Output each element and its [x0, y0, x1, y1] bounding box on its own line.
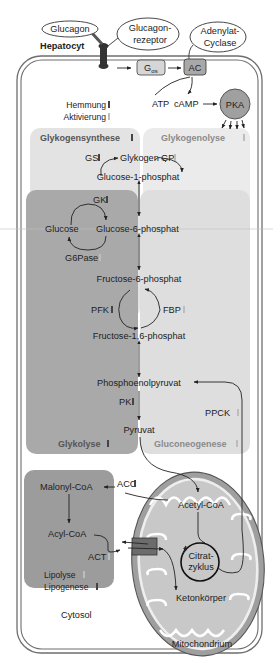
- activation-marker-icon: [108, 113, 110, 120]
- glucagon-signaling-diagram: Glucagon Glucagon- rezeptor Adenylat- Cy…: [0, 0, 273, 665]
- hepatocyt-label: Hepatocyt: [40, 41, 84, 51]
- receptor-label-line1: Glucagon-: [129, 23, 171, 33]
- lipid-lipogenese: Lipogenese: [44, 582, 89, 592]
- adenylat-label-line2: Cyclase: [204, 38, 237, 48]
- region-title-glykolyse: Glykolyse: [58, 439, 101, 449]
- metabolite-acetyl: Acetyl-CoA: [178, 500, 225, 510]
- camp-label: cAMP: [174, 99, 199, 109]
- legend-activation: Aktivierung: [63, 112, 106, 122]
- region-title-glykogensynthese: Glykogensynthese: [40, 133, 120, 143]
- metabolite-pyruvat: Pyruvat: [123, 425, 155, 435]
- metabolite-keton: Ketonkörper: [176, 593, 226, 603]
- carnitine-transporter: [132, 538, 157, 555]
- metabolite-glykogen: Glykogen: [120, 153, 159, 163]
- enzyme-fbp: FBP: [163, 305, 181, 315]
- enzyme-pk: PK: [119, 397, 132, 407]
- lipid-lipolyse: Lipolyse: [44, 570, 76, 580]
- adenylat-label-line1: Adenylat-: [201, 26, 240, 36]
- ac-label: AC: [189, 63, 202, 73]
- citrat-label-line1: Citrat-: [188, 551, 213, 561]
- enzyme-pfk: PFK: [91, 305, 110, 315]
- metabolite-g1p: Glucose-1-phosphat: [97, 172, 180, 182]
- metabolite-acyl: Acyl-CoA: [48, 529, 87, 539]
- compartment-cytosol: Cytosol: [61, 610, 92, 620]
- legend-inhibition: Hemmung: [66, 100, 106, 110]
- receptor-label-line2: rezeptor: [133, 35, 167, 45]
- enzyme-acc: ACC: [117, 479, 137, 489]
- metabolite-f16p: Fructose-1,6-phosphat: [93, 331, 186, 341]
- compartment-mitochondrium: Mitochondrium: [172, 639, 233, 649]
- enzyme-act: ACT: [88, 552, 107, 562]
- inhibition-marker-icon: [108, 101, 110, 108]
- enzyme-gk: GK: [93, 195, 107, 205]
- region-title-gluconeogenese: Gluconeogenese: [154, 439, 227, 449]
- glucagon-label: Glucagon: [50, 24, 89, 34]
- metabolite-g6p: Glucose-6-phosphat: [96, 224, 179, 234]
- metabolite-glucose: Glucose: [45, 224, 79, 234]
- metabolite-f6p: Fructose-6-phosphat: [97, 274, 182, 284]
- enzyme-g6pase: G6Pase: [65, 253, 98, 263]
- pka-label: PKA: [226, 100, 245, 110]
- enzyme-ppck: PPCK: [205, 408, 231, 418]
- atp-label: ATP: [152, 99, 169, 109]
- metabolite-pep: Phosphoenolpyruvat: [97, 378, 181, 388]
- enzyme-gs: GS: [85, 153, 98, 163]
- citrat-label-line2: zyklus: [188, 562, 214, 572]
- metabolite-malonyl: Malonyl-CoA: [40, 482, 93, 492]
- region-title-glykogenolyse: Glykogenolyse: [161, 133, 225, 143]
